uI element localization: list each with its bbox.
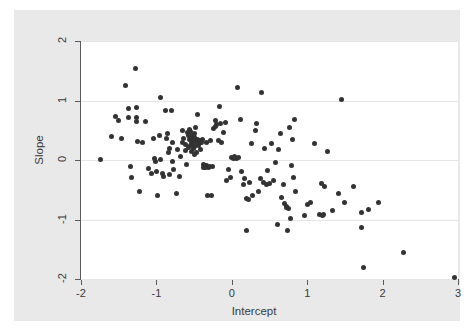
scatter-point bbox=[167, 172, 172, 177]
scatter-point bbox=[157, 133, 162, 138]
scatter-point bbox=[342, 200, 347, 205]
y-tick-mark bbox=[75, 160, 80, 161]
scatter-point bbox=[135, 139, 140, 144]
y-tick-label: -2 bbox=[56, 268, 68, 288]
scatter-point bbox=[308, 200, 313, 205]
scatter-point bbox=[169, 108, 174, 113]
scatter-point bbox=[285, 228, 290, 233]
graph-region: -2-1012 -2-10123 Slope Intercept bbox=[14, 10, 460, 321]
scatter-point bbox=[123, 83, 128, 88]
scatter-point bbox=[198, 147, 203, 152]
scatter-point bbox=[290, 137, 295, 142]
scatter-point bbox=[247, 180, 252, 185]
x-tick-mark bbox=[383, 280, 384, 285]
x-tick-label: 3 bbox=[446, 287, 470, 299]
scatter-point bbox=[170, 140, 175, 145]
y-tick-label: 2 bbox=[56, 30, 68, 50]
scatter-point bbox=[175, 147, 180, 152]
scatter-point bbox=[286, 206, 291, 211]
scatter-point bbox=[275, 222, 280, 227]
x-tick-mark bbox=[458, 280, 459, 285]
scatter-point bbox=[241, 182, 246, 187]
scatter-point bbox=[128, 164, 133, 169]
scatter-point bbox=[244, 228, 249, 233]
scatter-point bbox=[269, 141, 274, 146]
scatter-point bbox=[154, 169, 159, 174]
scatter-point bbox=[223, 120, 228, 125]
scatter-point bbox=[143, 119, 148, 124]
scatter-point bbox=[359, 225, 364, 230]
scatter-point bbox=[140, 140, 145, 145]
scatter-point bbox=[253, 128, 258, 133]
scatter-point bbox=[293, 189, 298, 194]
scatter-point bbox=[167, 146, 172, 151]
scatter-point bbox=[98, 157, 103, 162]
scatter-point bbox=[287, 125, 292, 130]
scatter-point bbox=[273, 160, 278, 165]
scatter-point bbox=[376, 200, 381, 205]
scatter-point bbox=[292, 117, 297, 122]
scatter-point bbox=[217, 104, 222, 109]
scatter-point bbox=[336, 191, 341, 196]
scatter-point bbox=[250, 193, 255, 198]
scatter-point bbox=[208, 138, 213, 143]
scatter-point bbox=[351, 184, 356, 189]
y-tick-label: 0 bbox=[56, 149, 68, 169]
scatter-point bbox=[276, 147, 281, 152]
x-tick-mark bbox=[307, 280, 308, 285]
scatter-point bbox=[281, 182, 286, 187]
x-tick-mark bbox=[156, 280, 157, 285]
scatter-point bbox=[256, 189, 261, 194]
scatter-point bbox=[302, 213, 307, 218]
scatter-point bbox=[129, 175, 134, 180]
scatter-point bbox=[210, 164, 215, 169]
scatter-point bbox=[254, 121, 259, 126]
scatter-point bbox=[239, 169, 244, 174]
scatter-point bbox=[180, 128, 185, 133]
scatter-point bbox=[265, 168, 270, 173]
scatter-point bbox=[221, 130, 226, 135]
y-tick-mark bbox=[75, 220, 80, 221]
x-tick-mark bbox=[81, 280, 82, 285]
scatter-point bbox=[259, 90, 264, 95]
scatter-point bbox=[158, 157, 163, 162]
y-axis-title: Slope bbox=[33, 120, 45, 180]
y-tick-mark bbox=[75, 279, 80, 280]
scatter-point bbox=[262, 146, 267, 151]
scatter-point bbox=[149, 171, 154, 176]
scatter-point bbox=[155, 193, 160, 198]
scatter-point bbox=[171, 167, 176, 172]
scatter-plot-figure: -2-1012 -2-10123 Slope Intercept bbox=[0, 0, 474, 332]
gridline-y bbox=[81, 220, 458, 221]
x-tick-label: -1 bbox=[144, 287, 168, 299]
scatter-point bbox=[134, 119, 139, 124]
scatter-point bbox=[325, 149, 330, 154]
scatter-point bbox=[291, 175, 296, 180]
x-axis-title: Intercept bbox=[194, 305, 314, 317]
scatter-point bbox=[359, 210, 364, 215]
scatter-point bbox=[366, 207, 371, 212]
scatter-point bbox=[133, 66, 138, 71]
scatter-point bbox=[401, 250, 406, 255]
scatter-point bbox=[161, 174, 166, 179]
scatter-point bbox=[174, 191, 179, 196]
scatter-point bbox=[153, 159, 158, 164]
scatter-point bbox=[181, 136, 186, 141]
scatter-point bbox=[219, 140, 224, 145]
scatter-point bbox=[242, 176, 247, 181]
scatter-point bbox=[119, 136, 124, 141]
y-tick-label: 1 bbox=[56, 90, 68, 110]
scatter-point bbox=[238, 117, 243, 122]
scatter-point bbox=[177, 174, 182, 179]
gridline-y bbox=[81, 41, 458, 42]
scatter-point bbox=[193, 125, 198, 130]
scatter-point bbox=[178, 154, 183, 159]
x-tick-label: 0 bbox=[220, 287, 244, 299]
scatter-point bbox=[271, 178, 276, 183]
scatter-point bbox=[151, 136, 156, 141]
scatter-point bbox=[209, 193, 214, 198]
gridline-y bbox=[81, 279, 458, 280]
scatter-point bbox=[184, 162, 189, 167]
scatter-point bbox=[249, 141, 254, 146]
scatter-point bbox=[158, 95, 163, 100]
